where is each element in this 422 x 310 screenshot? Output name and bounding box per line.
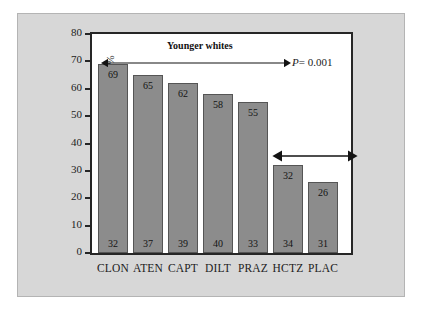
y-tick-mark [85,33,92,35]
bar-praz[interactable]: 55 33 [238,102,268,253]
y-tick-label: 80 [58,26,82,38]
bar-bottom-value: 34 [274,238,302,249]
bar-dilt[interactable]: 58 40 [203,94,233,253]
bar-bottom-value: 32 [99,238,127,249]
y-tick-label: 50 [58,108,82,120]
x-label-capt: CAPT [163,262,203,274]
x-label-praz: PRAZ [233,262,273,274]
bar-top-value: 55 [239,107,267,118]
y-tick-label: 10 [58,218,82,230]
y-tick-label: 30 [58,163,82,175]
y-tick-mark [85,115,92,117]
bar-top-value: 32 [274,170,302,181]
annotation-younger-whites-label: Younger whites [167,40,233,51]
bar-bottom-value: 33 [239,238,267,249]
bar-aten[interactable]: 65 37 [133,75,163,253]
bar-bottom-value: 31 [309,238,337,249]
y-tick-mark [85,170,92,172]
bar-bottom-value: 37 [134,238,162,249]
bar-plac[interactable]: 26 31 [308,182,338,253]
bar-top-value: 62 [169,88,197,99]
p-value-annotation: P= 0.001 [292,56,332,68]
y-tick-mark [85,252,92,254]
x-label-clon: CLON [93,262,133,274]
bar-bottom-value: 39 [169,238,197,249]
bar-top-value: 26 [309,187,337,198]
y-tick-label: 40 [58,136,82,148]
y-tick-mark [85,143,92,145]
bar-capt[interactable]: 62 39 [168,83,198,253]
plot-area: 0 10 20 30 40 50 60 70 [92,34,351,253]
bar-bottom-value: 40 [204,238,232,249]
bar-top-value: 69 [99,69,127,80]
x-label-plac: PLAC [303,262,343,274]
bar-top-value: 58 [204,99,232,110]
y-tick-label: 0 [58,245,82,257]
y-tick-label: 20 [58,190,82,202]
annotation-lower-group-arrow [92,149,351,163]
x-label-hctz: HCTZ [268,262,308,274]
x-label-dilt: DILT [198,262,238,274]
y-tick-mark [85,88,92,90]
p-value-text: = 0.001 [299,56,333,68]
y-tick-mark [85,197,92,199]
bar-hctz[interactable]: 32 34 [273,165,303,253]
x-label-aten: ATEN [128,262,168,274]
y-tick-mark [85,60,92,62]
y-tick-label: 70 [58,53,82,65]
p-symbol: P [292,56,299,68]
y-tick-mark [85,225,92,227]
y-tick-label: 60 [58,81,82,93]
figure-container: Patients with response, % 0 10 20 30 40 … [0,0,422,310]
bar-top-value: 65 [134,80,162,91]
